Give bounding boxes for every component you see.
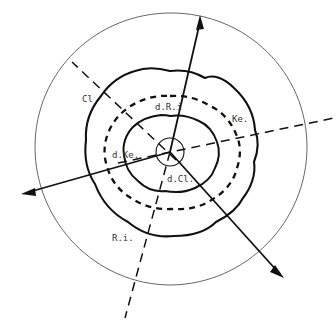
label-mid-contour: Ke. bbox=[232, 114, 248, 124]
axis-arrow-left bbox=[21, 152, 170, 196]
diagram-canvas: Cl d.R.i Ke. d.Ke. d.Cl. R.i. bbox=[0, 0, 336, 325]
label-bottom-contour: R.i. bbox=[112, 233, 134, 243]
label-core-contour: d.Cl. bbox=[167, 174, 194, 184]
axis-arrow-up bbox=[170, 15, 204, 152]
axis-arrow-down-right bbox=[170, 152, 284, 278]
label-inner-contour: d.Ke. bbox=[112, 150, 139, 160]
dash-axis-right bbox=[118, 118, 334, 163]
label-outer-contour: Cl bbox=[82, 94, 93, 104]
label-dashed-mid-contour: d.R.i bbox=[155, 102, 182, 112]
concentric-contour-diagram: Cl d.R.i Ke. d.Ke. d.Cl. R.i. bbox=[0, 0, 336, 325]
